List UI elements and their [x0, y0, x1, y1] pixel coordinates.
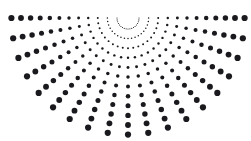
burst-dot [137, 45, 139, 47]
burst-dot [112, 43, 114, 45]
burst-dot [71, 36, 74, 39]
burst-dot [234, 55, 240, 61]
burst-dot [138, 35, 140, 37]
burst-dot [156, 98, 161, 103]
burst-dot [97, 67, 100, 70]
burst-dot [10, 35, 16, 41]
burst-dot [200, 104, 206, 110]
burst-dot [134, 56, 136, 58]
burst-dot [99, 27, 101, 29]
burst-dot [84, 41, 87, 44]
burst-dot [223, 15, 228, 20]
burst-dot [85, 124, 91, 130]
burst-dot [214, 90, 220, 96]
burst-dot [226, 52, 232, 58]
burst-dot [133, 27, 134, 28]
burst-dot [212, 31, 217, 36]
burst-dot [67, 50, 71, 54]
burst-dot [182, 36, 185, 39]
burst-dot [107, 51, 109, 53]
burst-dot [149, 80, 153, 84]
burst-dot [143, 63, 146, 66]
burst-dot [58, 28, 62, 32]
burst-dot [138, 21, 139, 22]
burst-dot [25, 52, 31, 58]
burst-dot [80, 33, 83, 36]
burst-dot [116, 17, 117, 18]
burst-dot [134, 37, 136, 39]
burst-dot [169, 92, 174, 97]
burst-dot [146, 72, 149, 75]
burst-dot [131, 38, 133, 40]
burst-dot [125, 132, 131, 138]
burst-dot [102, 59, 105, 62]
burst-dot [124, 28, 125, 29]
burst-dot [114, 84, 118, 88]
burst-dot [173, 33, 176, 36]
burst-dot [162, 116, 168, 122]
burst-dot [195, 16, 199, 20]
burst-dot [120, 37, 122, 39]
burst-dot [165, 124, 171, 130]
burst-dot [144, 120, 150, 126]
burst-dot [240, 35, 246, 41]
burst-dot [20, 34, 26, 40]
burst-dot [117, 35, 119, 37]
burst-dot [101, 32, 103, 34]
burst-dot [41, 64, 46, 69]
burst-dot [138, 19, 139, 20]
burst-dot [217, 49, 222, 54]
burst-dot [119, 25, 120, 26]
burst-dot [36, 90, 42, 96]
burst-dot [62, 39, 66, 43]
burst-dot [28, 15, 33, 20]
burst-dot [164, 48, 167, 51]
burst-dot [58, 72, 63, 77]
burst-dot [108, 111, 113, 116]
burst-dot [170, 69, 174, 73]
burst-dot [125, 122, 131, 128]
burst-dot [218, 69, 224, 75]
burst-dot [87, 17, 89, 19]
burst-dot [126, 75, 129, 78]
burst-dot [87, 83, 92, 88]
burst-dot [112, 93, 117, 98]
burst-dot [15, 55, 21, 61]
burst-dot [89, 30, 91, 32]
burst-dot [127, 47, 129, 49]
radial-dot-burst-figure [0, 0, 251, 141]
burst-dot [127, 57, 129, 59]
burst-dot [140, 33, 142, 35]
burst-dot [207, 84, 213, 90]
burst-dot [101, 47, 103, 49]
burst-dot [108, 40, 110, 42]
burst-dot [118, 23, 119, 24]
burst-dot [99, 89, 104, 94]
burst-dot [230, 34, 236, 40]
burst-dot [52, 42, 57, 47]
burst-dot [126, 94, 131, 99]
burst-dot [34, 49, 39, 54]
burst-dot [117, 45, 119, 47]
burst-dot [185, 16, 188, 19]
burst-dot [125, 113, 130, 118]
burst-dot [242, 15, 248, 21]
burst-dot [57, 16, 61, 20]
burst-dot [126, 28, 127, 29]
burst-dot [157, 42, 159, 44]
burst-dot [81, 54, 84, 57]
burst-dot [58, 55, 63, 60]
burst-dot [203, 29, 208, 34]
burst-dot [204, 16, 209, 21]
burst-dot [88, 116, 94, 122]
burst-dot [29, 32, 34, 37]
burst-dot [136, 25, 137, 26]
burst-dot [97, 22, 99, 24]
burst-dot [122, 27, 123, 28]
burst-dot [51, 78, 56, 83]
burst-dot [159, 107, 164, 112]
burst-dot [92, 37, 94, 39]
burst-dot [92, 75, 96, 79]
burst-dot [193, 55, 198, 60]
burst-dot [126, 85, 130, 89]
